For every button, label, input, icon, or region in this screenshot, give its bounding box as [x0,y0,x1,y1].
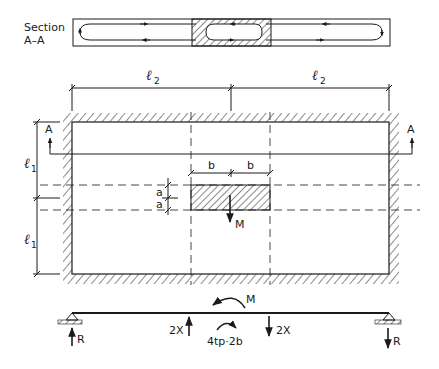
b-right-label: b [247,159,254,172]
b-left-label: b [208,159,215,172]
plate-diagram: Section A–A ℓ 2 ℓ 2 [0,0,439,369]
a-bottom-label: a [156,198,163,211]
l2-dimension: ℓ 2 ℓ 2 [69,67,392,112]
section-label-line1: Section [24,21,65,34]
couple-arrow-icon [217,323,236,330]
section-flow-right [266,24,382,40]
section-flow-middle [206,24,262,40]
l2-left-subscript: 2 [154,76,160,86]
left-force-label: 2X [169,324,184,337]
section-view: Section A–A [24,19,390,47]
section-label-line2: A–A [24,34,45,47]
patch-moment-label: M [235,218,245,231]
right-reaction-label: R [393,335,401,348]
beam-moment-arrow-icon [213,298,245,308]
l1-top-subscript: 1 [31,164,37,174]
left-support-icon [66,313,78,320]
right-force-label: 2X [276,324,291,337]
l1-bottom-symbol: ℓ [24,231,30,247]
section-mark-left: A [45,123,53,136]
section-mark-right: A [407,123,415,136]
l1-top-symbol: ℓ [24,155,30,171]
l2-right-subscript: 2 [320,76,326,86]
couple-label: 4tp·2b [207,335,243,348]
l2-left-symbol: ℓ [146,67,152,83]
beam-diagram: R R 2X 2X M 4tp·2b [58,293,401,348]
beam-moment-label: M [246,293,256,306]
l1-dimension: ℓ 1 ℓ 1 [24,119,60,277]
plate: M A A [40,112,420,285]
left-reaction-label: R [77,333,85,346]
l1-bottom-subscript: 1 [31,240,37,250]
section-flow-left [80,24,196,40]
l2-right-symbol: ℓ [312,67,318,83]
right-support-icon [383,313,395,320]
